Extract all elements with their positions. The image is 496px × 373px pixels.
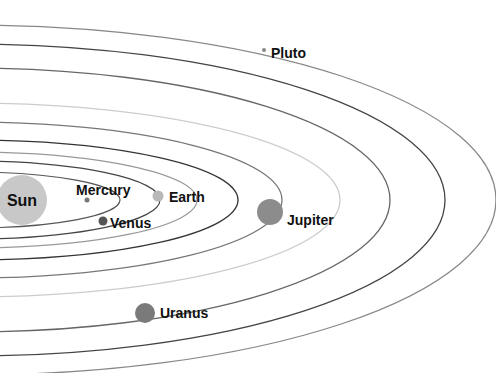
labels-group: SunMercuryVenusEarthJupiterUranusPluto xyxy=(7,45,334,321)
orbits-group xyxy=(0,25,496,373)
earth-planet-icon xyxy=(153,191,164,202)
venus-planet-icon xyxy=(99,217,108,226)
neptune-orbit xyxy=(0,44,445,356)
sun-label: Sun xyxy=(7,192,37,209)
uranus-label: Uranus xyxy=(160,305,208,321)
pluto-label: Pluto xyxy=(271,45,306,61)
mercury-label: Mercury xyxy=(76,182,131,198)
pluto-orbit xyxy=(0,25,496,373)
jupiter-planet-icon xyxy=(257,199,283,225)
bodies-group xyxy=(0,48,283,323)
mercury-planet-icon xyxy=(85,198,90,203)
uranus-planet-icon xyxy=(135,303,155,323)
pluto-planet-icon xyxy=(262,48,266,52)
earth-label: Earth xyxy=(169,189,205,205)
solar-system-diagram: SunMercuryVenusEarthJupiterUranusPluto xyxy=(0,0,496,373)
jupiter-label: Jupiter xyxy=(287,212,334,228)
venus-label: Venus xyxy=(110,215,151,231)
